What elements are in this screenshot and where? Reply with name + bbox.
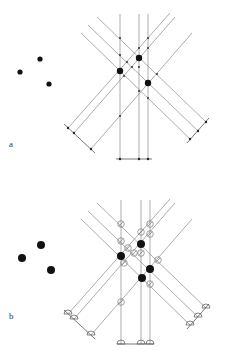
diagonal-ray-up	[91, 33, 192, 149]
source-point	[37, 56, 42, 61]
intersection-marker	[119, 37, 121, 39]
source-point	[37, 241, 45, 249]
intersection-marker	[131, 66, 133, 68]
intersection-marker	[138, 66, 140, 68]
intersection-marker	[123, 75, 125, 77]
reconstructed-point	[146, 265, 154, 273]
reconstructed-point	[117, 68, 123, 74]
reconstructed-point	[145, 80, 151, 86]
source-point	[18, 254, 26, 262]
source-point	[17, 69, 22, 74]
reconstructed-point	[117, 252, 125, 260]
diagonal-ray-down	[81, 219, 190, 325]
reconstructed-point	[137, 240, 145, 248]
detector-tick	[119, 158, 121, 160]
diagonal-ray-down	[97, 203, 206, 308]
detector-tick	[189, 138, 191, 140]
detector-tick	[147, 158, 149, 160]
intersection-marker	[147, 97, 149, 99]
projection-diagram	[0, 0, 226, 351]
diagonal-ray-down	[97, 17, 206, 122]
detector-tick	[138, 158, 140, 160]
detector-tick	[73, 132, 75, 134]
intersection-marker	[138, 90, 140, 92]
intersection-marker	[147, 37, 149, 39]
panel-label-b: b	[9, 311, 14, 321]
detector-tick	[197, 130, 199, 132]
reconstructed-point	[136, 55, 142, 61]
panel-label-a: a	[9, 139, 13, 149]
source-point	[46, 81, 51, 86]
diagonal-ray-down	[81, 33, 190, 139]
intersection-marker	[119, 115, 121, 117]
diagonal-ray-down	[88, 211, 198, 317]
detector-tick	[90, 148, 92, 150]
intersection-marker	[138, 47, 140, 49]
source-point	[47, 266, 55, 274]
intersection-marker	[147, 47, 149, 49]
diagonal-ray-down	[88, 25, 198, 131]
intersection-marker	[156, 73, 158, 75]
intersection-marker	[119, 54, 121, 56]
reconstructed-point	[138, 274, 146, 282]
intersection-marker	[126, 61, 128, 63]
detector-tick	[67, 127, 69, 129]
detector-tick	[205, 121, 207, 123]
